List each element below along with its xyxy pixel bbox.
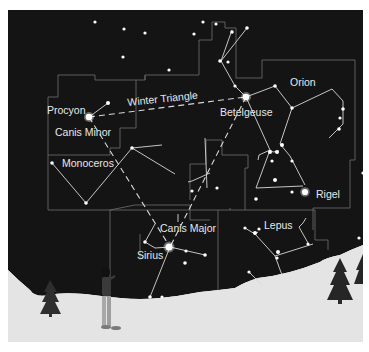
label-betelgeuse: Betelgeuse	[220, 107, 273, 118]
label-procyon: Procyon	[47, 105, 86, 116]
label-orion: Orion	[290, 77, 316, 88]
star-chart	[0, 0, 369, 352]
label-canis-minor: Canis Minor	[55, 127, 111, 138]
label-canis-major: Canis Major	[160, 223, 216, 234]
label-lepus: Lepus	[264, 220, 293, 231]
label-rigel: Rigel	[316, 189, 340, 200]
label-monoceros: Monoceros	[62, 158, 114, 169]
night-sky	[8, 10, 363, 299]
label-sirius: Sirius	[137, 250, 163, 261]
